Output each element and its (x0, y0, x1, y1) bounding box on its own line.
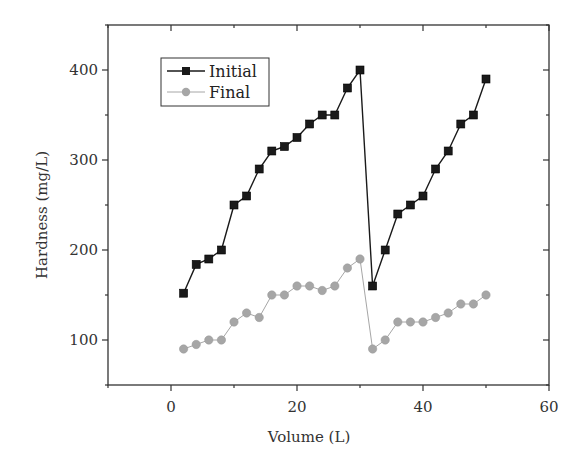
data-point-square (180, 289, 188, 297)
data-point-square (230, 201, 238, 209)
data-point-circle (205, 336, 213, 344)
data-point-square (293, 134, 301, 142)
data-point-circle (293, 282, 301, 290)
data-point-square (255, 165, 263, 173)
data-point-square (331, 111, 339, 119)
x-tick-label: 0 (166, 398, 176, 416)
x-tick-label: 40 (413, 398, 432, 416)
data-point-square (381, 246, 389, 254)
legend-label: Initial (209, 62, 257, 81)
data-point-circle (318, 286, 326, 294)
data-point-circle (179, 345, 187, 353)
data-point-circle (268, 291, 276, 299)
data-point-circle (280, 291, 288, 299)
legend-label: Final (209, 83, 250, 102)
data-point-square (217, 246, 225, 254)
data-point-square (268, 147, 276, 155)
data-point-square (469, 111, 477, 119)
y-axis-label: Hardness (mg/L) (33, 151, 51, 279)
data-point-square (394, 210, 402, 218)
data-point-square (318, 111, 326, 119)
data-point-circle (331, 282, 339, 290)
x-tick-label: 60 (539, 398, 558, 416)
data-point-circle (444, 309, 452, 317)
data-point-square (356, 66, 364, 74)
hardness-line-chart: 0204060100200300400 InitialFinal Volume … (0, 0, 588, 464)
data-point-circle (482, 291, 490, 299)
y-tick-label: 200 (69, 241, 98, 259)
x-axis-label: Volume (L) (267, 428, 350, 446)
data-point-square (343, 84, 351, 92)
series-line (184, 259, 486, 349)
data-point-square (406, 201, 414, 209)
data-point-circle (381, 336, 389, 344)
data-point-square (369, 282, 377, 290)
data-point-circle (457, 300, 465, 308)
series-layer (179, 66, 490, 353)
legend: InitialFinal (161, 58, 269, 106)
data-point-square (457, 120, 465, 128)
data-point-circle (255, 313, 263, 321)
data-point-square (192, 260, 200, 268)
y-tick-label: 400 (69, 61, 98, 79)
y-tick-label: 100 (69, 331, 98, 349)
data-point-circle (419, 318, 427, 326)
data-point-circle (230, 318, 238, 326)
data-point-circle (305, 282, 313, 290)
tick-labels: 0204060100200300400 (69, 61, 558, 416)
data-point-square (444, 147, 452, 155)
data-point-square (243, 192, 251, 200)
legend-circle-marker (182, 88, 190, 96)
data-point-square (419, 192, 427, 200)
data-point-circle (217, 336, 225, 344)
data-point-square (280, 143, 288, 151)
x-tick-label: 20 (287, 398, 306, 416)
data-point-square (432, 165, 440, 173)
data-point-square (205, 255, 213, 263)
data-point-circle (192, 340, 200, 348)
data-point-circle (406, 318, 414, 326)
series-final (179, 255, 490, 353)
data-point-circle (368, 345, 376, 353)
data-point-circle (242, 309, 250, 317)
y-tick-label: 300 (69, 151, 98, 169)
data-point-circle (469, 300, 477, 308)
data-point-square (306, 120, 314, 128)
data-point-square (482, 75, 490, 83)
data-point-circle (356, 255, 364, 263)
data-point-circle (431, 313, 439, 321)
data-point-circle (394, 318, 402, 326)
legend-square-marker (182, 67, 190, 75)
data-point-circle (343, 264, 351, 272)
